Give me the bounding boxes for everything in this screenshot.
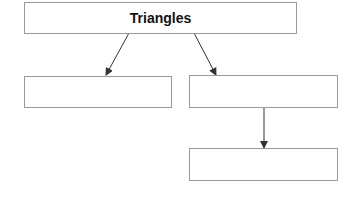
arrow-to-right-box [194, 33, 216, 75]
left-box [24, 76, 172, 108]
arrow-to-left-box [106, 33, 129, 75]
title-label: Triangles [130, 10, 191, 26]
bottom-box [189, 148, 338, 181]
right-box [189, 75, 338, 108]
title-box: Triangles [24, 2, 297, 34]
